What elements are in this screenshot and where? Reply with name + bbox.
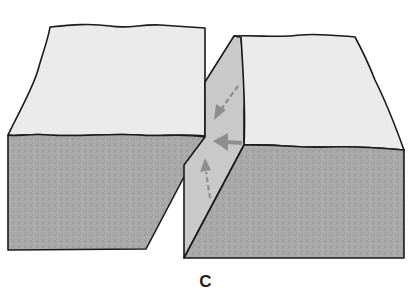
fault-block-diagram: [0, 0, 411, 295]
strike-arrow-shaft: [226, 142, 242, 143]
figure-caption: C: [0, 272, 411, 292]
left-block-front-face: [8, 134, 205, 250]
right-block-top-face: [234, 34, 404, 150]
left-block-top-face: [8, 24, 205, 136]
left-block: [8, 24, 205, 250]
